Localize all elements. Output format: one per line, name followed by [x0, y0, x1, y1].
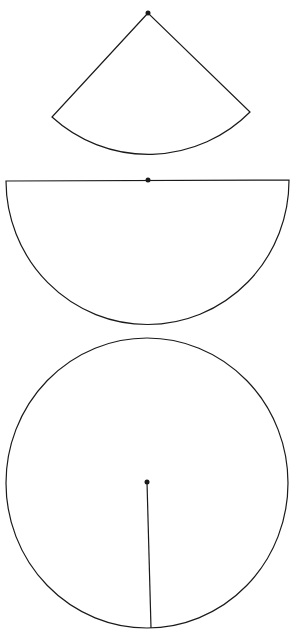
semicircle-figure [6, 178, 289, 325]
semicircle-center-dot [146, 178, 151, 183]
sector-center-dot [146, 11, 151, 16]
sector-figure [52, 11, 250, 155]
circle-center-dot [145, 480, 150, 485]
circle-figure [6, 338, 288, 628]
semicircle-outline [6, 180, 289, 325]
sector-outline [52, 13, 250, 154]
circle-radius-line [147, 482, 151, 628]
diagram-canvas [0, 0, 292, 640]
